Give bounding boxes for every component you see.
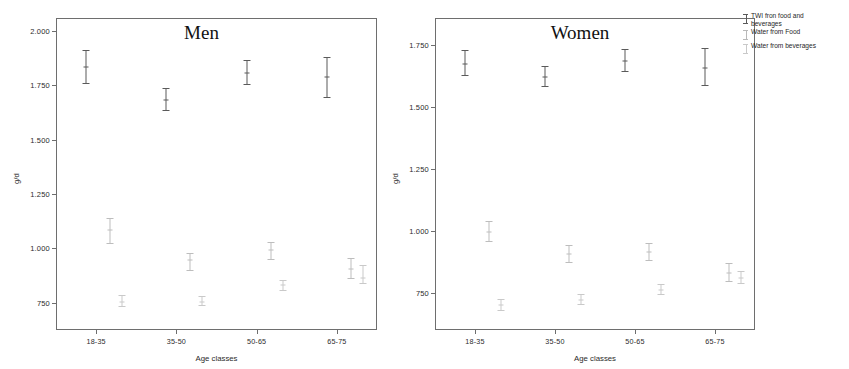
x-axis-label-men: Age classes <box>195 354 237 363</box>
error-bar-mean-marker <box>120 301 125 302</box>
error-bar-cap-lower <box>347 278 354 279</box>
error-bar-cap-lower <box>187 270 194 271</box>
error-bar-cap-upper <box>702 48 709 49</box>
error-bar-marker <box>82 50 90 85</box>
error-bar-cap-lower <box>323 97 330 98</box>
error-bar-mean-marker <box>499 305 504 306</box>
error-bar-mean-marker <box>348 269 353 270</box>
error-bar-cap-upper <box>646 243 653 244</box>
x-axis-tick-label: 18-35 <box>465 337 484 346</box>
legend-item: Water from Food <box>742 28 848 41</box>
error-bar-stem <box>270 242 271 260</box>
x-axis-tick-mark <box>475 330 476 334</box>
error-bar-marker <box>461 50 469 76</box>
error-bar-mean-marker <box>84 66 89 67</box>
error-bar-cap-upper <box>359 265 366 266</box>
error-bar-mean-marker <box>543 77 548 78</box>
error-bar-mean-marker <box>579 300 584 301</box>
error-bar-stem <box>110 218 111 244</box>
error-bar-marker <box>243 60 251 85</box>
x-axis-tick-mark <box>257 330 258 334</box>
panel-title-men: Men <box>184 22 219 44</box>
y-axis-tick-mark <box>52 248 56 249</box>
error-bar-mean-marker <box>567 254 572 255</box>
error-bar-marker <box>621 49 629 73</box>
y-axis-tick-label: 1.750 <box>4 81 50 90</box>
x-axis-tick-label: 35-50 <box>545 337 564 346</box>
error-bar-mean-marker <box>200 301 205 302</box>
x-axis-tick-mark <box>176 330 177 334</box>
error-bar-cap-lower <box>279 290 286 291</box>
error-bar-cap-lower <box>243 84 250 85</box>
chart-panel-women: Women 1.7501.5001.2501.000750g/d 18-3535… <box>380 0 780 369</box>
error-bar-marker <box>198 296 206 306</box>
error-bar-cap-upper <box>83 50 90 51</box>
error-bar-marker <box>359 265 367 285</box>
error-bar-cap-lower <box>542 86 549 87</box>
legend-key-error-bar-icon <box>742 29 751 41</box>
panel-title-women: Women <box>551 22 610 44</box>
y-axis-tick-mark <box>52 31 56 32</box>
y-axis-tick-label: 1.500 <box>383 103 429 112</box>
y-axis-label-men: g/d <box>12 173 21 184</box>
error-bar-marker <box>162 88 170 112</box>
x-axis-tick-label: 65-75 <box>327 337 346 346</box>
legend-item-label: TWI fron food and beverages <box>751 12 804 27</box>
error-bar-marker <box>645 243 653 260</box>
error-bar-marker <box>347 258 355 279</box>
error-bar-cap-upper <box>542 66 549 67</box>
y-axis-tick-label: 1.250 <box>383 165 429 174</box>
error-bar-cap-lower <box>267 259 274 260</box>
error-bar-cap-lower <box>359 283 366 284</box>
x-axis-tick-mark <box>337 330 338 334</box>
error-bar-marker <box>118 295 126 307</box>
error-bar-marker <box>497 299 505 311</box>
error-bar-cap-lower <box>498 310 505 311</box>
x-axis-tick-mark <box>635 330 636 334</box>
error-bar-marker <box>186 253 194 271</box>
error-bar-marker <box>323 57 331 98</box>
error-bar-marker <box>577 294 585 305</box>
y-axis-tick-mark <box>52 303 56 304</box>
error-bar-cap-lower <box>726 281 733 282</box>
error-bar-marker <box>485 221 493 242</box>
error-bar-mean-marker <box>244 73 249 74</box>
y-axis-tick-label: 750 <box>4 298 50 307</box>
error-bar-mean-marker <box>280 285 285 286</box>
legend-item: TWI fron food and beverages <box>742 12 848 27</box>
error-bar-cap-lower <box>107 243 114 244</box>
error-bar-marker <box>701 48 709 86</box>
x-axis-tick-mark <box>715 330 716 334</box>
error-bar-mean-marker <box>703 67 708 68</box>
y-axis-tick-label: 750 <box>383 288 429 297</box>
error-bar-cap-upper <box>347 258 354 259</box>
y-axis-tick-label: 2.000 <box>4 27 50 36</box>
error-bar-marker <box>725 263 733 282</box>
error-bar-mean-marker <box>268 249 273 250</box>
y-axis-tick-label: 1.250 <box>4 190 50 199</box>
x-axis-tick-label: 35-50 <box>167 337 186 346</box>
error-bar-stem <box>190 253 191 271</box>
chart-legend: TWI fron food and beveragesWater from Fo… <box>742 12 848 56</box>
error-bar-mean-marker <box>659 290 664 291</box>
y-axis-tick-mark <box>431 45 435 46</box>
y-axis-tick-mark <box>431 169 435 170</box>
error-bar-mean-marker <box>188 260 193 261</box>
error-bar-marker <box>657 284 665 295</box>
y-axis-tick-mark <box>52 140 56 141</box>
error-bar-mean-marker <box>623 61 628 62</box>
error-bar-cap-lower <box>199 305 206 306</box>
error-bar-cap-upper <box>243 60 250 61</box>
error-bar-mean-marker <box>360 277 365 278</box>
error-bar-marker <box>541 66 549 87</box>
x-axis-label-women: Age classes <box>574 354 616 363</box>
error-bar-mean-marker <box>739 277 744 278</box>
error-bar-cap-lower <box>163 110 170 111</box>
error-bar-marker <box>106 218 114 244</box>
error-bar-cap-upper <box>486 221 493 222</box>
y-axis-tick-mark <box>431 107 435 108</box>
error-bar-mean-marker <box>463 63 468 64</box>
error-bar-cap-lower <box>566 262 573 263</box>
error-bar-cap-upper <box>462 50 469 51</box>
x-axis-tick-label: 65-75 <box>705 337 724 346</box>
